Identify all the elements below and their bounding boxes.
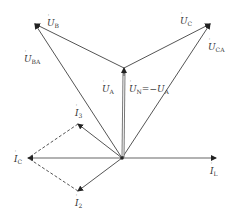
svg-text:·: · — [76, 191, 78, 198]
svg-text:I3: I3 — [74, 108, 83, 119]
svg-text:·: · — [25, 47, 27, 54]
svg-text:·: · — [209, 35, 211, 42]
label-uca: UCA · — [208, 35, 225, 53]
label-il: IL · — [209, 159, 218, 177]
svg-text:·: · — [181, 9, 183, 16]
svg-text:UA: UA — [102, 84, 115, 95]
svg-text:·: · — [48, 11, 50, 18]
label-ua: UA · — [102, 77, 115, 95]
vector-i3 — [78, 124, 122, 158]
svg-text:UC: UC — [180, 16, 193, 27]
vector-uc — [124, 24, 210, 68]
svg-text:·: · — [103, 77, 105, 84]
label-ic: IC · — [13, 147, 23, 165]
svg-text:·: · — [211, 159, 213, 166]
svg-text:UCA: UCA — [208, 42, 225, 53]
svg-text:UB: UB — [47, 18, 60, 29]
label-uc: UC · — [180, 9, 193, 27]
label-un-equals-minus-ua: UN=−UA · — [129, 77, 170, 95]
label-i3: I3 · — [74, 101, 83, 119]
svg-text:·: · — [130, 77, 132, 84]
svg-text:UN=−UA: UN=−UA — [129, 84, 170, 95]
vector-i2 — [78, 158, 122, 191]
svg-text:IC: IC — [13, 154, 23, 165]
label-uba: UBA · — [24, 47, 41, 65]
svg-text:·: · — [15, 147, 17, 154]
label-i2: I2 · — [74, 191, 83, 209]
svg-text:I2: I2 — [74, 198, 83, 209]
dashed-i2-ic — [28, 158, 78, 191]
dashed-i3-ic — [28, 124, 78, 158]
label-ub: UB · — [47, 11, 60, 29]
vector-ub — [35, 24, 124, 68]
svg-text:IL: IL — [209, 166, 218, 177]
svg-text:·: · — [76, 101, 78, 108]
origin-point — [120, 156, 124, 160]
phasor-diagram: UB · UC · UBA · UCA · UA · UN=−UA · I3 ·… — [0, 0, 235, 224]
svg-text:UBA: UBA — [24, 54, 41, 65]
